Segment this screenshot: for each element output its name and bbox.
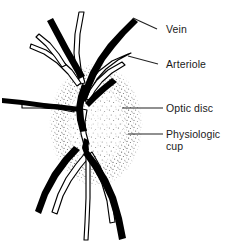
label-arteriole: Arteriole [166, 58, 206, 70]
label-physiologic-cup-line1: Physiologic [166, 128, 220, 140]
optic-disc-figure: Vein Arteriole Optic disc Physiologic cu… [0, 0, 229, 241]
label-vein: Vein [166, 23, 187, 35]
label-physiologic-cup-line2: cup [166, 140, 183, 152]
label-optic-disc: Optic disc [166, 102, 213, 114]
figure-canvas: Vein Arteriole Optic disc Physiologic cu… [0, 0, 229, 241]
